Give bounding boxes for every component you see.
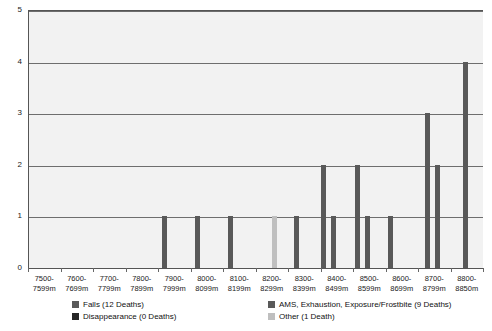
x-label-line-2: 8699m <box>386 284 419 294</box>
legend-swatch-icon <box>268 301 275 308</box>
x-axis-category-label: 7600-7699m <box>61 274 94 294</box>
x-tick <box>256 268 257 272</box>
x-axis-category-label: 8700-8799m <box>418 274 451 294</box>
x-label-line-1: 8200- <box>256 274 289 284</box>
x-tick <box>483 268 484 272</box>
x-label-line-1: 7600- <box>61 274 94 284</box>
chart-legend: Falls (12 Deaths)Disappearance (0 Deaths… <box>0 300 492 331</box>
legend-item[interactable]: Disappearance (0 Deaths) <box>72 312 176 321</box>
x-label-line-1: 8600- <box>386 274 419 284</box>
gridline <box>29 166 483 167</box>
legend-label: Falls (12 Deaths) <box>83 300 144 309</box>
bar <box>355 165 360 268</box>
bar <box>463 62 468 268</box>
x-label-line-2: 8099m <box>191 284 224 294</box>
x-label-line-1: 8500- <box>353 274 386 284</box>
x-axis-category-label: 8100-8199m <box>223 274 256 294</box>
x-tick <box>353 268 354 272</box>
x-axis-category-label: 7500-7599m <box>28 274 61 294</box>
legend-label: AMS, Exhaustion, Exposure/Frostbite (9 D… <box>279 300 452 309</box>
bar <box>272 216 277 268</box>
legend-label: Disappearance (0 Deaths) <box>83 312 176 321</box>
x-label-line-2: 7999m <box>158 284 191 294</box>
bar <box>388 216 393 268</box>
x-label-line-1: 8700- <box>418 274 451 284</box>
bar <box>365 216 370 268</box>
x-label-line-2: 8850m <box>451 284 484 294</box>
bar <box>228 216 233 268</box>
x-axis-category-label: 8000-8099m <box>191 274 224 294</box>
x-axis-category-label: 8800-8850m <box>451 274 484 294</box>
legend-item[interactable]: Other (1 Death) <box>268 312 335 321</box>
x-tick <box>191 268 192 272</box>
x-tick <box>158 268 159 272</box>
bar <box>425 113 430 268</box>
bar <box>195 216 200 268</box>
x-axis-ticks <box>28 268 483 272</box>
legend-item[interactable]: Falls (12 Deaths) <box>72 300 144 309</box>
x-tick <box>386 268 387 272</box>
x-tick <box>418 268 419 272</box>
bar <box>321 165 326 268</box>
x-label-line-2: 8499m <box>321 284 354 294</box>
legend-item[interactable]: AMS, Exhaustion, Exposure/Frostbite (9 D… <box>268 300 452 309</box>
x-axis-category-label: 8300-8399m <box>288 274 321 294</box>
y-tick-label: 3 <box>18 109 22 117</box>
x-axis-category-label: 8600-8699m <box>386 274 419 294</box>
x-label-line-1: 7800- <box>126 274 159 284</box>
x-axis-category-label: 7700-7799m <box>93 274 126 294</box>
x-label-line-1: 8400- <box>321 274 354 284</box>
bar <box>162 216 167 268</box>
x-label-line-2: 8599m <box>353 284 386 294</box>
plot-area <box>28 10 483 268</box>
legend-swatch-icon <box>268 313 275 320</box>
x-tick <box>451 268 452 272</box>
x-tick <box>288 268 289 272</box>
bar <box>331 216 336 268</box>
x-label-line-2: 7799m <box>93 284 126 294</box>
plot-wrapper: 012345 <box>0 0 492 276</box>
x-label-line-1: 7500- <box>28 274 61 284</box>
y-tick-label: 4 <box>18 58 22 66</box>
x-tick <box>223 268 224 272</box>
x-axis-category-label: 7800-7899m <box>126 274 159 294</box>
gridline <box>29 11 483 12</box>
x-label-line-1: 8300- <box>288 274 321 284</box>
x-label-line-2: 8799m <box>418 284 451 294</box>
x-axis-labels: 7500-7599m7600-7699m7700-7799m7800-7899m… <box>28 274 483 300</box>
x-label-line-1: 8100- <box>223 274 256 284</box>
x-label-line-2: 8299m <box>256 284 289 294</box>
x-label-line-1: 7700- <box>93 274 126 284</box>
y-tick-label: 0 <box>18 264 22 272</box>
x-label-line-2: 8399m <box>288 284 321 294</box>
y-tick-label: 1 <box>18 212 22 220</box>
legend-swatch-icon <box>72 313 79 320</box>
legend-label: Other (1 Death) <box>279 312 335 321</box>
x-axis-category-label: 8400-8499m <box>321 274 354 294</box>
gridline <box>29 63 483 64</box>
y-tick-label: 5 <box>18 6 22 14</box>
bar-chart: 012345 7500-7599m7600-7699m7700-7799m780… <box>0 0 492 331</box>
y-axis: 012345 <box>0 0 28 276</box>
bar <box>435 165 440 268</box>
bar <box>294 216 299 268</box>
x-tick <box>126 268 127 272</box>
gridline <box>29 217 483 218</box>
legend-swatch-icon <box>72 301 79 308</box>
x-tick <box>61 268 62 272</box>
x-label-line-2: 8199m <box>223 284 256 294</box>
x-tick <box>28 268 29 272</box>
x-label-line-1: 7900- <box>158 274 191 284</box>
x-label-line-2: 7599m <box>28 284 61 294</box>
x-label-line-2: 7899m <box>126 284 159 294</box>
x-label-line-1: 8000- <box>191 274 224 284</box>
x-label-line-2: 7699m <box>61 284 94 294</box>
plot-inner <box>29 11 483 268</box>
x-axis-category-label: 8200-8299m <box>256 274 289 294</box>
x-label-line-1: 8800- <box>451 274 484 284</box>
gridline <box>29 114 483 115</box>
x-axis-category-label: 8500-8599m <box>353 274 386 294</box>
x-tick <box>321 268 322 272</box>
x-axis-category-label: 7900-7999m <box>158 274 191 294</box>
x-tick <box>93 268 94 272</box>
